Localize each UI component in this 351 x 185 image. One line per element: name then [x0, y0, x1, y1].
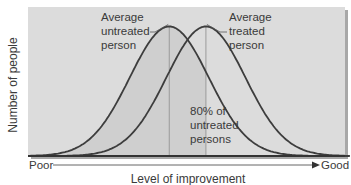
chart: Average untreated person Average treated… [0, 0, 351, 185]
annotation-treated-line-3: person [229, 39, 264, 51]
annotation-percent-line-3: persons [190, 133, 231, 145]
annotation-treated-line-1: Average [229, 11, 272, 23]
annotation-untreated-line-3: person [101, 39, 136, 51]
arrow-head-icon [312, 162, 320, 169]
x-axis-end-label: Good [321, 159, 349, 171]
annotation-untreated-line-1: Average [101, 11, 144, 23]
x-axis-label: Level of improvement [131, 172, 246, 185]
annotation-percent-line-1: 80% of [190, 105, 227, 117]
annotation-percent-line-2: untreated [190, 119, 239, 131]
annotation-treated-line-2: treated [229, 25, 265, 37]
y-axis-label: Number of people [6, 37, 20, 133]
annotation-untreated-line-2: untreated [101, 25, 150, 37]
x-axis-start-label: Poor [29, 159, 53, 171]
